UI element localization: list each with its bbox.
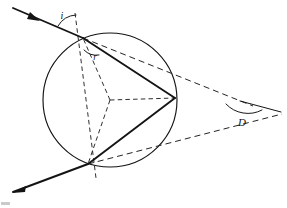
angle-of-refraction-label: r <box>93 52 97 62</box>
incident-ray-arrowhead-icon <box>27 12 40 21</box>
ray-diagram-canvas: i r D <box>0 0 287 208</box>
angle-of-incidence-label: i <box>61 10 64 21</box>
deviation-angle-label: D <box>237 116 246 128</box>
radius-to-exit-point-dashed <box>88 100 110 164</box>
emergent-ray-back-extension-dashed <box>88 114 282 164</box>
radius-to-reflection-point-dashed <box>110 98 175 100</box>
internal-chord-entry-to-reflection <box>83 38 175 98</box>
optics-diagram-figure: i r D <box>0 0 287 208</box>
incident-ray-line <box>13 8 83 38</box>
internal-chord-reflection-to-exit <box>88 98 175 164</box>
page-scan-artifact <box>1 202 10 205</box>
